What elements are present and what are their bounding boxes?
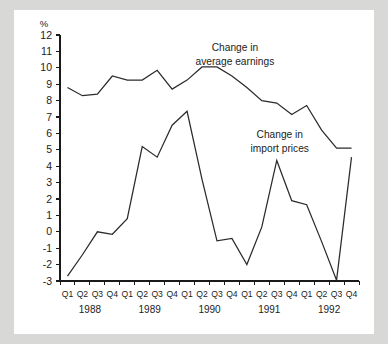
- annotation-import-prices-line1: Change in: [257, 129, 303, 140]
- x-tick-label-quarter: Q1: [62, 289, 74, 299]
- x-axis-year-label: 1991: [258, 304, 281, 315]
- x-tick-label-quarter: Q4: [166, 289, 178, 299]
- y-tick-label: 7: [46, 111, 52, 123]
- y-tick-label: 11: [41, 45, 52, 57]
- x-tick-label-quarter: Q2: [316, 289, 328, 299]
- series-line-average-earnings: [67, 67, 351, 148]
- x-tick-label-quarter: Q4: [107, 289, 119, 299]
- y-tick-label: 6: [46, 127, 52, 139]
- x-tick-label-quarter: Q1: [241, 289, 253, 299]
- y-tick-label: 10: [40, 61, 52, 73]
- y-tick-label: 5: [46, 143, 52, 155]
- series-line-import-prices: [67, 111, 351, 280]
- x-tick-label-quarter: Q3: [271, 289, 283, 299]
- y-tick-label: -3: [43, 275, 52, 287]
- x-tick-label-quarter: Q4: [346, 289, 358, 299]
- x-tick-label-quarter: Q3: [211, 289, 223, 299]
- x-tick-label-quarter: Q1: [122, 289, 134, 299]
- y-tick-label: 1: [46, 209, 52, 221]
- x-tick-label-quarter: Q2: [136, 289, 148, 299]
- y-tick-label: 3: [46, 176, 52, 188]
- y-tick-label: 0: [46, 225, 52, 237]
- y-tick-label: -1: [43, 242, 52, 254]
- chart-figure: 1211109876543210-1-2-3% Q1Q2Q3Q4Q1Q2Q3Q4…: [14, 10, 374, 334]
- x-tick-label-quarter: Q4: [286, 289, 298, 299]
- x-tick-label-quarter: Q3: [151, 289, 163, 299]
- y-tick-label: 9: [46, 78, 52, 90]
- annotation-average-earnings-line1: Change in: [212, 42, 258, 53]
- y-tick-label: -2: [43, 258, 52, 270]
- x-tick-label-quarter: Q3: [331, 289, 343, 299]
- y-axis: 1211109876543210-1-2-3%: [40, 18, 60, 287]
- y-tick-label: 12: [40, 29, 52, 41]
- x-tick-label-quarter: Q1: [301, 289, 313, 299]
- annotation-import-prices-line2: import prices: [251, 143, 309, 154]
- y-axis-unit-label: %: [40, 18, 49, 29]
- y-tick-label: 4: [46, 160, 52, 172]
- line-chart: 1211109876543210-1-2-3% Q1Q2Q3Q4Q1Q2Q3Q4…: [14, 10, 374, 334]
- x-axis-year-label: 1990: [198, 304, 221, 315]
- y-tick-label: 8: [46, 94, 52, 106]
- x-tick-label-quarter: Q2: [77, 289, 89, 299]
- annotation-average-earnings-line2: average earnings: [196, 56, 275, 67]
- x-axis-year-label: 1989: [139, 304, 162, 315]
- x-tick-label-quarter: Q3: [92, 289, 104, 299]
- chart-annotations: Change inaverage earningsChange inimport…: [196, 42, 309, 154]
- x-tick-label-quarter: Q4: [226, 289, 238, 299]
- series-lines: [67, 67, 351, 280]
- x-axis-year-label: 1988: [79, 304, 102, 315]
- x-axis-year-label: 1992: [318, 304, 341, 315]
- x-tick-label-quarter: Q2: [256, 289, 268, 299]
- x-tick-label-quarter: Q2: [196, 289, 208, 299]
- x-tick-label-quarter: Q1: [181, 289, 193, 299]
- y-tick-label: 2: [46, 193, 52, 205]
- x-axis: Q1Q2Q3Q4Q1Q2Q3Q4Q1Q2Q3Q4Q1Q2Q3Q4Q1Q2Q3Q4…: [60, 281, 359, 315]
